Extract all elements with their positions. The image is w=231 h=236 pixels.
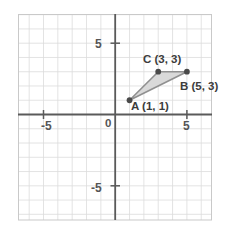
x-axis-tick-label-neg5: -5	[41, 120, 52, 132]
point-label-b: B (5, 3)	[180, 81, 218, 93]
point-c-dot	[155, 69, 161, 75]
origin-label: 0	[105, 118, 111, 130]
point-b-dot	[184, 69, 190, 75]
point-label-a: A (1, 1)	[131, 101, 169, 113]
coordinate-plane-figure: -5 5 5 -5 0 A (1, 1) B (5, 3) C (3, 3)	[0, 0, 231, 236]
x-axis-tick-label-pos5: 5	[183, 120, 190, 132]
y-axis-tick-label-pos5: 5	[95, 38, 102, 50]
coordinate-plane-svg	[0, 0, 231, 236]
point-label-c: C (3, 3)	[143, 54, 181, 66]
y-axis-tick-label-neg5: -5	[91, 182, 102, 194]
axes	[18, 14, 212, 220]
